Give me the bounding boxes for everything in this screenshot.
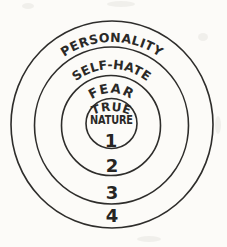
center-label-line2: NATURE: [90, 112, 133, 128]
ring-2-number: 2: [106, 155, 119, 176]
ring-4-number: 4: [106, 205, 119, 226]
center-label-line2-group: NATURE: [90, 112, 133, 128]
concentric-circles-diagram: PERSONALITY SELF-HATE FEAR TRUE NATURE 1…: [0, 0, 227, 247]
diagram-page: PERSONALITY SELF-HATE FEAR TRUE NATURE 1…: [0, 0, 227, 247]
ring-1-number: 1: [105, 130, 118, 151]
ring-3-number: 3: [106, 182, 119, 203]
